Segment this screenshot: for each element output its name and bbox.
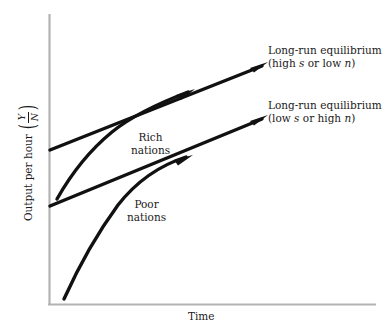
y-axis-fraction: ( Y N ) bbox=[17, 103, 39, 131]
eq-low-prefix: (low bbox=[268, 112, 294, 124]
annotation-longrun-equilibrium-low: Long-run equilibrium (low s or high n) bbox=[268, 99, 382, 125]
annotation-rich-line1: Rich bbox=[131, 131, 170, 144]
eq-high-suffix: ) bbox=[351, 57, 355, 69]
fraction-denominator: N bbox=[29, 113, 40, 121]
eq-high-mid: or low bbox=[304, 57, 344, 69]
series-curves bbox=[50, 66, 262, 299]
eq-low-mid: or high bbox=[300, 112, 345, 124]
growth-convergence-figure: Long-run equilibrium (high s or low n) L… bbox=[0, 0, 385, 334]
fraction-numerator: Y bbox=[17, 114, 28, 120]
annotation-eq-low-line1: Long-run equilibrium bbox=[268, 99, 382, 112]
y-axis-label-text: Output per hour bbox=[22, 134, 34, 221]
fraction-y-over-n: Y N bbox=[17, 112, 39, 123]
x-axis-label: Time bbox=[188, 310, 215, 323]
arrowhead-longrun-high bbox=[250, 62, 268, 73]
annotation-rich-line2: nations bbox=[131, 144, 170, 157]
arrowhead-longrun-low bbox=[250, 115, 268, 126]
eq-low-suffix: ) bbox=[351, 112, 355, 124]
curve-poor-nations bbox=[64, 157, 186, 299]
y-axis-label: Output per hour ( Y N ) bbox=[18, 82, 38, 242]
annotation-rich-nations: Rich nations bbox=[131, 131, 170, 157]
eq-high-prefix: (high bbox=[268, 57, 299, 69]
annotation-poor-nations: Poor nations bbox=[127, 198, 166, 224]
annotation-eq-high-line1: Long-run equilibrium bbox=[268, 44, 382, 57]
annotation-eq-high-line2: (high s or low n) bbox=[268, 57, 382, 70]
annotation-poor-line1: Poor bbox=[127, 198, 166, 211]
annotation-eq-low-line2: (low s or high n) bbox=[268, 112, 382, 125]
annotation-longrun-equilibrium-high: Long-run equilibrium (high s or low n) bbox=[268, 44, 382, 70]
fraction-left-paren: ( bbox=[17, 124, 39, 129]
annotation-poor-line2: nations bbox=[127, 211, 166, 224]
fraction-right-paren: ) bbox=[17, 105, 39, 110]
